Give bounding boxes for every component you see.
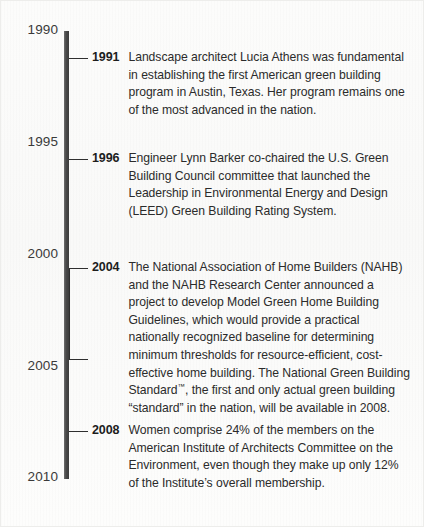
event-body-1996: 1996 Engineer Lynn Barker co-chaired the…	[92, 150, 411, 220]
event-year-2004: 2004	[92, 259, 119, 277]
event-year-2008: 2008	[92, 422, 119, 440]
event-body-2008: 2008 Women comprise 24% of the members o…	[92, 422, 411, 492]
axis-label-1990: 1990	[1, 22, 58, 37]
timeline-infographic: 1990 1995 2000 2005 2010 1991 Landscape …	[0, 0, 424, 527]
event-year-1996: 1996	[92, 150, 119, 168]
marker-dash-1991	[69, 58, 88, 59]
timeline-figure: 1990 1995 2000 2005 2010 1991 Landscape …	[1, 1, 423, 526]
marker-bracket-2004	[69, 268, 88, 360]
event-body-2004: 2004 The National Association of Home Bu…	[92, 259, 411, 417]
event-text-1991: Landscape architect Lucia Athens was fun…	[128, 49, 411, 119]
event-text-2004: The National Association of Home Builder…	[128, 259, 411, 417]
timeline-event-1996: 1996 Engineer Lynn Barker co-chaired the…	[69, 150, 411, 220]
timeline-event-1991: 1991 Landscape architect Lucia Athens wa…	[69, 49, 411, 119]
axis-label-1995: 1995	[1, 134, 58, 149]
timeline-event-2008: 2008 Women comprise 24% of the members o…	[69, 422, 411, 492]
marker-dash-2008	[69, 431, 88, 432]
event-body-1991: 1991 Landscape architect Lucia Athens wa…	[92, 49, 411, 119]
trademark-symbol-2004: ™	[178, 382, 185, 391]
marker-dash-1996	[69, 159, 88, 160]
axis-label-2000: 2000	[1, 246, 58, 261]
timeline-event-2004: 2004 The National Association of Home Bu…	[69, 259, 411, 417]
axis-label-2010: 2010	[1, 469, 58, 484]
event-text-2004-part1: The National Association of Home Builder…	[128, 260, 410, 397]
event-year-1991: 1991	[92, 49, 119, 67]
event-text-1996: Engineer Lynn Barker co-chaired the U.S.…	[128, 150, 411, 220]
event-text-2008: Women comprise 24% of the members on the…	[128, 422, 411, 492]
axis-label-2005: 2005	[1, 358, 58, 373]
